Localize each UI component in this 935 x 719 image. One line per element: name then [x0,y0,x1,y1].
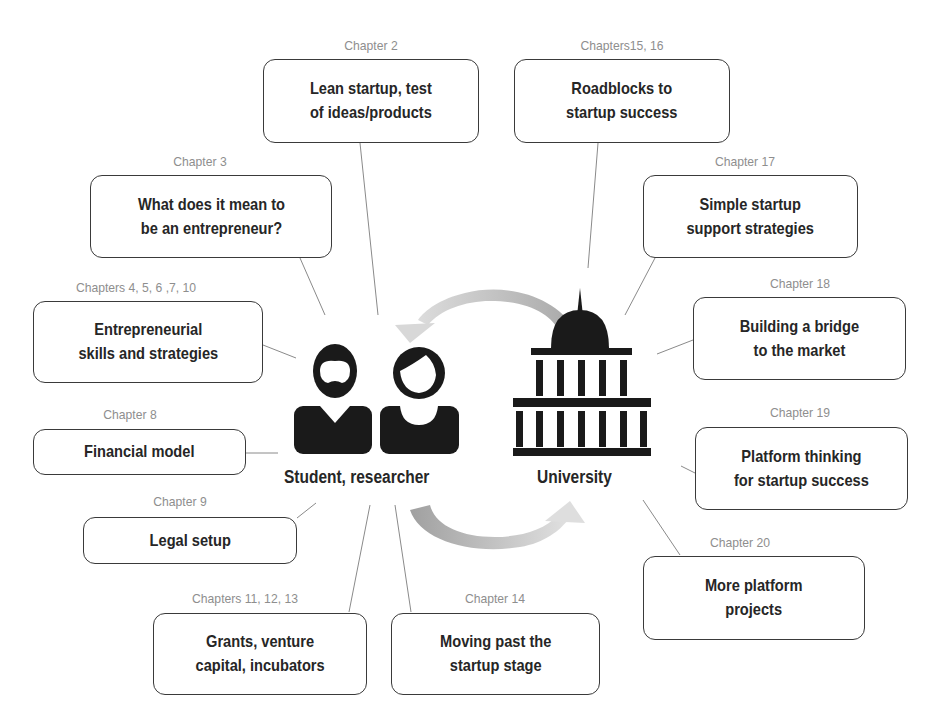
chapter-label-ch14: Chapter 14 [446,591,545,606]
topic-box-entrepreneurial-skills: Entrepreneurial skills and strategies [33,301,263,383]
topic-text: Lean startup, test of ideas/products [310,77,432,125]
student-researcher-label: Student, researcher [284,467,429,488]
topic-text: Entrepreneurial skills and strategies [78,318,218,366]
topic-text: Financial model [84,440,194,464]
topic-text: What does it mean to be an entrepreneur? [137,193,284,241]
topic-box-grants: Grants, venture capital, incubators [153,613,367,695]
topic-text: Grants, venture capital, incubators [195,630,324,678]
topic-box-moving-past: Moving past the startup stage [391,613,600,695]
topic-box-roadblocks: Roadblocks to startup success [514,59,730,143]
topic-text: Roadblocks to startup success [566,77,677,125]
topic-box-bridge-to-market: Building a bridge to the market [693,297,906,380]
topic-box-lean-startup: Lean startup, test of ideas/products [263,59,479,143]
topic-box-legal-setup: Legal setup [83,517,297,564]
topic-box-financial-model: Financial model [33,429,246,475]
chapter-label-ch17: Chapter 17 [696,154,795,169]
university-building-icon [513,288,653,458]
chapter-label-ch2: Chapter 2 [274,38,468,53]
topic-text: Moving past the startup stage [440,630,551,678]
topic-text: Simple startup support strategies [687,193,815,241]
topic-box-platform-thinking: Platform thinking for startup success [695,427,908,510]
university-label: University [537,467,612,488]
chapter-label-ch4: Chapters 4, 5, 6 ,7, 10 [64,280,208,295]
topic-box-support-strategies: Simple startup support strategies [643,175,858,258]
topic-box-entrepreneur-meaning: What does it mean to be an entrepreneur? [90,175,332,258]
topic-text: Platform thinking for startup success [734,445,869,493]
chapter-label-ch15: Chapters15, 16 [525,38,719,53]
chapter-label-ch9: Chapter 9 [135,494,225,509]
topic-text: Legal setup [149,529,230,553]
people-icon [292,343,462,455]
chapter-label-ch11: Chapters 11, 12, 13 [178,591,313,606]
chapter-label-ch8: Chapter 8 [85,407,175,422]
topic-text: Building a bridge to the market [740,315,859,363]
topic-box-more-platform: More platform projects [643,556,865,640]
topic-text: More platform projects [705,574,802,622]
chapter-label-ch20: Chapter 20 [695,535,785,550]
chapter-label-ch18: Chapter 18 [751,276,850,291]
chapter-label-ch19: Chapter 19 [751,405,850,420]
chapter-label-ch3: Chapter 3 [146,154,254,169]
